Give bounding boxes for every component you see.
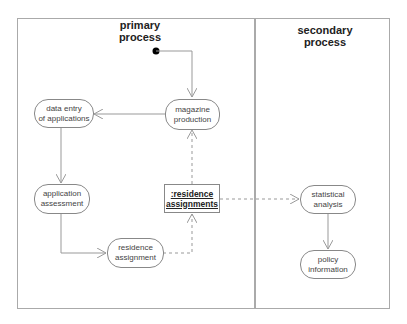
lane-title-line: secondary	[285, 24, 365, 36]
lane-title-line: process	[285, 36, 365, 48]
activity-residence-assignment[interactable]: residenceassignment	[107, 238, 164, 268]
object-residence-assignments[interactable]: :residenceassignments	[164, 184, 220, 213]
node-label: assessment	[41, 199, 84, 209]
lane-title-secondary: secondary process	[285, 24, 365, 48]
lane-title-line: process	[100, 31, 180, 43]
node-label: residence	[115, 243, 156, 253]
node-label: application	[41, 189, 84, 199]
object-label: :residence	[166, 189, 218, 199]
node-label: production	[174, 115, 211, 125]
lane-title-primary: primary process	[100, 19, 180, 43]
node-label: policy	[308, 255, 348, 265]
lane-title-line: primary	[100, 19, 180, 31]
activity-statistical-analysis[interactable]: statisticalanalysis	[300, 185, 356, 214]
node-label: information	[308, 265, 348, 275]
node-label: of applications	[38, 114, 89, 124]
object-label: assignments	[166, 199, 218, 209]
node-label: statistical	[312, 190, 345, 200]
activity-application-assessment[interactable]: applicationassessment	[34, 184, 90, 214]
node-label: analysis	[312, 200, 345, 210]
node-label: data entry	[38, 104, 89, 114]
node-label: magazine	[174, 105, 211, 115]
activity-policy-information[interactable]: policyinformation	[300, 250, 356, 279]
activity-magazine-production[interactable]: magazineproduction	[165, 99, 220, 130]
node-label: assignment	[115, 253, 156, 263]
activity-data-entry[interactable]: data entryof applications	[34, 99, 94, 128]
